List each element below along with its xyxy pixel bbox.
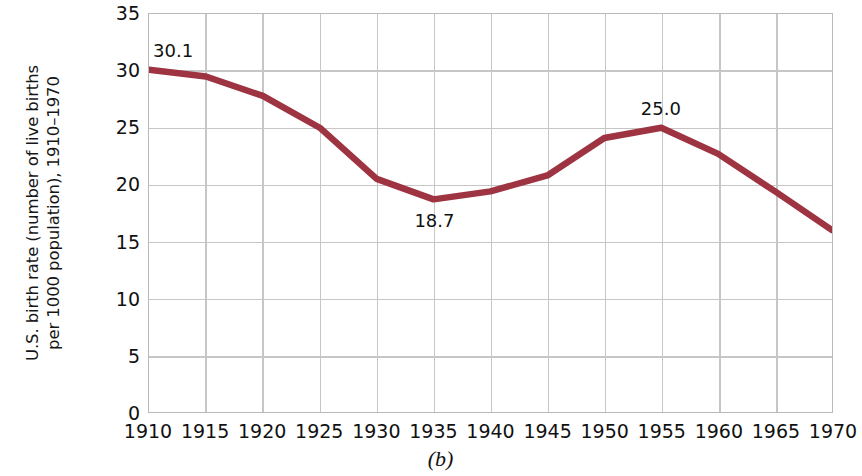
y-axis-tick-label: 10 xyxy=(96,290,140,309)
data-point-label: 18.7 xyxy=(414,212,454,230)
y-axis-tick-labels: 05101520253035 xyxy=(96,13,140,413)
y-axis-tick-label: 20 xyxy=(96,175,140,194)
data-point-label: 30.1 xyxy=(153,42,193,60)
y-axis-tick-label: 30 xyxy=(96,61,140,80)
y-axis-tick-label: 5 xyxy=(96,347,140,366)
y-axis-title-line-2: per 1000 population), 1910–1970 xyxy=(43,3,64,423)
y-axis-tick-label: 25 xyxy=(96,118,140,137)
data-value-annotations: 30.118.725.0 xyxy=(149,14,832,412)
y-axis-title-line-1: U.S. birth rate (number of live births xyxy=(22,3,43,423)
figure-caption: (b) xyxy=(148,446,733,472)
y-axis-title: U.S. birth rate (number of live births p… xyxy=(22,3,82,423)
data-point-label: 25.0 xyxy=(641,100,681,118)
x-axis-tick-labels: 1910191519201925193019351940194519501955… xyxy=(148,419,833,449)
x-axis-tick-label: 1970 xyxy=(793,419,862,443)
y-axis-tick-label: 15 xyxy=(96,233,140,252)
birth-rate-line-chart: U.S. birth rate (number of live births p… xyxy=(0,0,862,476)
plot-area: 30.118.725.0 xyxy=(148,13,833,413)
y-axis-tick-label: 35 xyxy=(96,4,140,23)
